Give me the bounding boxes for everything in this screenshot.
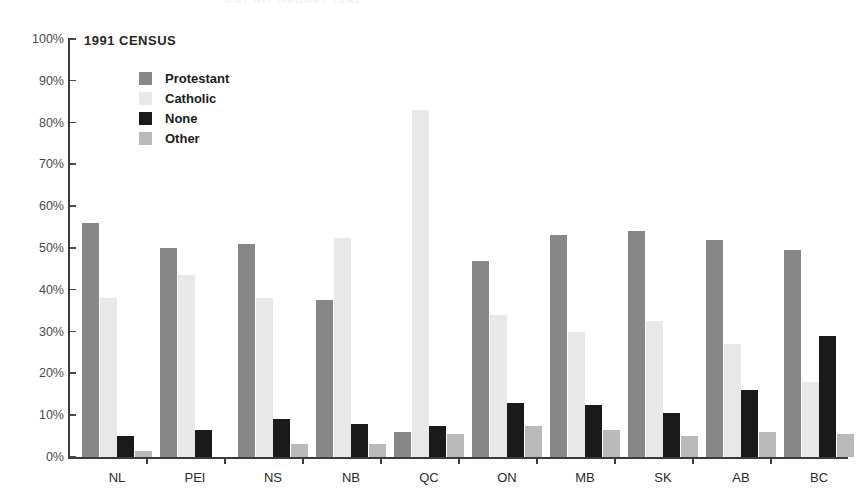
bar (135, 451, 152, 457)
x-axis-tick-mark (692, 458, 694, 464)
cropped-header-strip: cut off header text (0, 0, 857, 10)
x-axis-tick-mark (614, 458, 616, 464)
y-axis-tick-label: 10% (39, 408, 64, 422)
bar (178, 275, 195, 457)
bar (117, 436, 134, 457)
x-axis-tick-mark (146, 458, 148, 464)
bar (724, 344, 741, 457)
bar (351, 424, 368, 457)
bar (447, 434, 464, 457)
bar (628, 231, 645, 457)
bar (490, 315, 507, 457)
x-axis-tick-label: NS (234, 470, 312, 485)
bar (568, 332, 585, 457)
x-axis-tick-mark (458, 458, 460, 464)
x-axis-tick-label: QC (390, 470, 468, 485)
x-axis-tick-label: PEI (156, 470, 234, 485)
bar (802, 382, 819, 457)
x-axis-tick-label: NL (78, 470, 156, 485)
x-axis-tick-label: NB (312, 470, 390, 485)
y-axis-tick-mark (70, 38, 76, 40)
y-axis-tick: 10% (2, 408, 76, 422)
y-axis-tick-mark (70, 372, 76, 374)
y-axis-tick-mark (70, 456, 76, 458)
y-axis-tick-label: 0% (46, 450, 64, 464)
y-axis-tick-mark (70, 331, 76, 333)
y-axis-tick-label: 20% (39, 366, 64, 380)
y-axis-tick: 90% (2, 74, 76, 88)
y-axis-tick-mark (70, 80, 76, 82)
x-axis-tick-label: ON (468, 470, 546, 485)
y-axis-tick-mark (70, 289, 76, 291)
bar (291, 444, 308, 457)
y-axis-tick: 80% (2, 116, 76, 130)
bar (646, 321, 663, 457)
y-axis-tick: 0% (2, 450, 76, 464)
bar (369, 444, 386, 457)
x-axis-tick-mark (224, 458, 226, 464)
y-axis-tick-mark (70, 122, 76, 124)
bar (394, 432, 411, 457)
y-axis-tick: 70% (2, 157, 76, 171)
plot-area: 0%10%20%30%40%50%60%70%80%90%100% NLPEIN… (68, 38, 848, 458)
bar (316, 300, 333, 457)
y-axis-tick-label: 40% (39, 283, 64, 297)
bar (82, 223, 99, 457)
bar (585, 405, 602, 457)
census-bar-chart-figure: cut off header text 1991 CENSUS Protesta… (0, 0, 857, 501)
bar (741, 390, 758, 457)
y-axis-tick-label: 80% (39, 116, 64, 130)
bar (238, 244, 255, 457)
bar (334, 238, 351, 457)
bar (759, 432, 776, 457)
cropped-header-text: cut off header text (225, 0, 360, 6)
bar (681, 436, 698, 457)
bar (100, 298, 117, 457)
x-axis-tick-mark (302, 458, 304, 464)
y-axis-tick-mark (70, 163, 76, 165)
bar (525, 426, 542, 457)
x-axis-tick-label: SK (624, 470, 702, 485)
bar (273, 419, 290, 457)
bar (603, 430, 620, 457)
bar (837, 434, 854, 457)
bar (160, 248, 177, 457)
y-axis-tick-mark (70, 205, 76, 207)
y-axis-tick-mark (70, 247, 76, 249)
y-axis-tick-label: 50% (39, 241, 64, 255)
x-axis-tick-mark (380, 458, 382, 464)
y-axis-tick: 100% (2, 32, 76, 46)
bar (507, 403, 524, 457)
y-axis-tick-label: 60% (39, 199, 64, 213)
y-axis-tick-label: 90% (39, 74, 64, 88)
y-axis-tick-label: 100% (32, 32, 64, 46)
y-axis-tick-label: 30% (39, 325, 64, 339)
y-axis-tick-mark (70, 414, 76, 416)
bar (195, 430, 212, 457)
bar (256, 298, 273, 457)
bar (429, 426, 446, 457)
y-axis-tick-label: 70% (39, 157, 64, 171)
x-axis-tick-mark (536, 458, 538, 464)
x-axis-tick-label: MB (546, 470, 624, 485)
y-axis-tick: 50% (2, 241, 76, 255)
x-axis-tick-label: AB (702, 470, 780, 485)
x-axis-tick-label: BC (780, 470, 857, 485)
bar (550, 235, 567, 457)
bar (412, 110, 429, 457)
y-axis-tick: 20% (2, 366, 76, 380)
bar (663, 413, 680, 457)
y-axis-tick: 60% (2, 199, 76, 213)
bar (784, 250, 801, 457)
x-axis-tick-mark (770, 458, 772, 464)
bar (472, 261, 489, 457)
bar (819, 336, 836, 457)
y-axis-tick: 30% (2, 325, 76, 339)
bar (706, 240, 723, 457)
y-axis-tick: 40% (2, 283, 76, 297)
